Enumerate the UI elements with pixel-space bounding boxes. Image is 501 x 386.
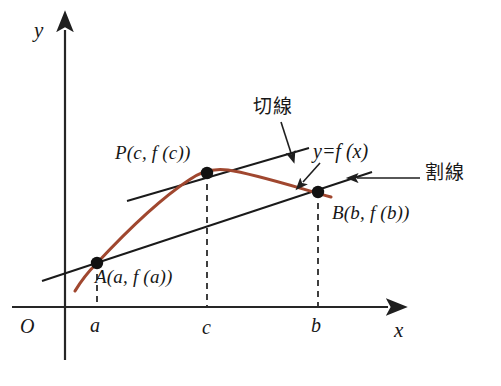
point-p-label: P(c, f (c)) [115,143,191,162]
figure-canvas [0,0,501,386]
x-tick-label-c: c [202,317,211,337]
point-b-label: B(b, f (b)) [332,203,410,222]
x-axis-label: x [394,320,403,341]
y-axis-label: y [34,20,43,41]
tangent-label-leader [281,122,291,153]
calculus-tangent-secant-figure: y x O a c b P(c, f (c)) A(a, f (a)) B(b,… [0,0,501,386]
x-tick-label-b: b [311,315,321,335]
point-b-marker [312,186,324,198]
point-p-marker [201,167,213,179]
x-tick-label-a: a [90,315,100,335]
point-a-label: A(a, f (a)) [95,267,173,286]
curve-equation-label: y=f (x) [313,141,368,161]
curve-label-leader [303,163,320,182]
origin-label: O [20,316,34,336]
secant-line-label: 割線 [425,163,465,182]
tangent-line-label: 切線 [253,97,293,116]
